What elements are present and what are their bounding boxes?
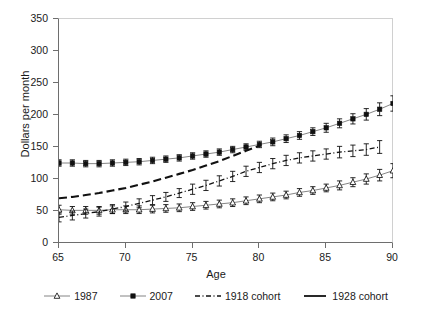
- legend-swatch-filled-square-line: [120, 290, 146, 302]
- series-line: [59, 103, 393, 163]
- marker-filled-square: [97, 161, 101, 165]
- marker-open-triangle: [59, 207, 62, 212]
- marker-filled-square: [284, 136, 288, 140]
- plot-svg: [59, 19, 393, 243]
- y-tick-label: 300: [14, 45, 48, 55]
- legend-swatch-open-triangle-line: [44, 290, 70, 302]
- marker-filled-square: [150, 158, 154, 162]
- marker-filled-square: [297, 133, 301, 137]
- marker-filled-square: [230, 147, 234, 151]
- x-tick-mark: [325, 243, 326, 248]
- series-1928-cohort: [59, 146, 259, 198]
- x-tick-mark: [58, 243, 59, 248]
- legend-item-1918-cohort[interactable]: 1918 cohort: [195, 290, 280, 302]
- y-tick-label: 50: [14, 205, 48, 215]
- legend-label: 1918 cohort: [225, 291, 280, 302]
- legend-label: 2007: [150, 291, 173, 302]
- marker-filled-square: [391, 101, 393, 105]
- chart-legend: 198720071918 cohort1928 cohort: [0, 290, 432, 302]
- x-tick-mark: [125, 243, 126, 248]
- legend-item-2007[interactable]: 2007: [120, 290, 173, 302]
- marker-filled-square: [190, 154, 194, 158]
- x-tick-label: 80: [243, 252, 273, 262]
- legend-label: 1928 cohort: [332, 291, 387, 302]
- series-line: [59, 146, 259, 198]
- marker-filled-square: [337, 121, 341, 125]
- legend-marker-filled-square: [130, 294, 134, 298]
- marker-filled-square: [84, 161, 88, 165]
- marker-filled-square: [377, 107, 381, 111]
- marker-filled-square: [59, 161, 61, 165]
- series-2007: [59, 96, 393, 167]
- y-tick-label: 100: [14, 173, 48, 183]
- marker-filled-square: [124, 160, 128, 164]
- x-tick-label: 70: [110, 252, 140, 262]
- x-axis-title: Age: [0, 268, 432, 280]
- y-tick-label: 200: [14, 109, 48, 119]
- marker-filled-square: [70, 161, 74, 165]
- legend-item-1928-cohort[interactable]: 1928 cohort: [302, 290, 387, 302]
- legend-label: 1987: [74, 291, 97, 302]
- x-tick-label: 75: [177, 252, 207, 262]
- marker-filled-square: [324, 126, 328, 130]
- marker-open-triangle: [390, 168, 393, 173]
- marker-filled-square: [311, 129, 315, 133]
- marker-filled-square: [271, 140, 275, 144]
- x-tick-mark: [392, 243, 393, 248]
- y-tick-label: 150: [14, 141, 48, 151]
- marker-filled-square: [351, 117, 355, 121]
- marker-filled-square: [217, 150, 221, 154]
- marker-filled-square: [164, 157, 168, 161]
- legend-swatch-solid-thick-line: [302, 290, 328, 302]
- marker-filled-square: [137, 160, 141, 164]
- legend-swatch-dash-dot-line: [195, 290, 221, 302]
- marker-filled-square: [244, 145, 248, 149]
- marker-filled-square: [204, 152, 208, 156]
- y-tick-label: 250: [14, 77, 48, 87]
- marker-filled-square: [177, 156, 181, 160]
- y-tick-label: 0: [14, 237, 48, 247]
- plot-area: [58, 18, 393, 243]
- series-1987: [59, 164, 393, 215]
- x-tick-label: 65: [43, 252, 73, 262]
- chart-figure: Dollars per month Age 350300250200150100…: [0, 0, 432, 313]
- x-tick-mark: [192, 243, 193, 248]
- x-tick-mark: [258, 243, 259, 248]
- marker-filled-square: [364, 112, 368, 116]
- x-tick-label: 85: [310, 252, 340, 262]
- marker-filled-square: [110, 161, 114, 165]
- y-tick-label: 350: [14, 13, 48, 23]
- legend-item-1987[interactable]: 1987: [44, 290, 97, 302]
- x-tick-label: 90: [377, 252, 407, 262]
